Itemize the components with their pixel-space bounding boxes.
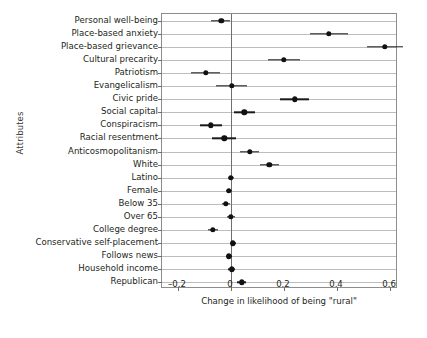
category-label: Place-based anxiety bbox=[14, 28, 158, 37]
category-label: Republican bbox=[14, 277, 158, 286]
gridline-row bbox=[162, 21, 396, 22]
estimate-point bbox=[228, 214, 233, 219]
estimate-point bbox=[223, 201, 228, 206]
y-axis-tick bbox=[158, 243, 162, 244]
y-axis-tick bbox=[158, 112, 162, 113]
y-axis-tick bbox=[158, 165, 162, 166]
gridline-row bbox=[162, 47, 396, 48]
estimate-point bbox=[222, 136, 227, 141]
estimate-point bbox=[267, 162, 272, 167]
x-axis-tick-label: 0.4 bbox=[329, 279, 343, 289]
category-label: Conspiracism bbox=[14, 120, 158, 129]
x-axis-tick-label: 0 bbox=[227, 279, 232, 289]
category-label: Cultural precarity bbox=[14, 54, 158, 63]
gridline-row bbox=[162, 152, 396, 153]
gridline-row bbox=[162, 204, 396, 205]
y-axis-tick bbox=[158, 191, 162, 192]
estimate-point bbox=[382, 44, 387, 49]
gridline-row bbox=[162, 230, 396, 231]
estimate-point bbox=[239, 280, 244, 285]
estimate-point bbox=[292, 96, 297, 101]
y-axis-tick bbox=[158, 60, 162, 61]
gridline-row bbox=[162, 243, 396, 244]
gridline-row bbox=[162, 217, 396, 218]
category-label: Evangelicalism bbox=[14, 81, 158, 90]
y-axis-tick bbox=[158, 152, 162, 153]
y-axis-tick bbox=[158, 269, 162, 270]
y-axis-tick bbox=[158, 47, 162, 48]
estimate-point bbox=[241, 110, 246, 115]
category-label: Racial resentment bbox=[14, 133, 158, 142]
estimate-point bbox=[229, 83, 234, 88]
category-label: Latino bbox=[14, 172, 158, 181]
category-label: College degree bbox=[14, 225, 158, 234]
y-axis-tick bbox=[158, 256, 162, 257]
gridline-row bbox=[162, 99, 396, 100]
gridline-row bbox=[162, 112, 396, 113]
estimate-plot-figure: Attributes Personal well-beingPlace-base… bbox=[0, 0, 427, 338]
category-label: Below 35 bbox=[14, 198, 158, 207]
category-label-column: Personal well-beingPlace-based anxietyPl… bbox=[14, 13, 158, 288]
x-axis-tick-label: 0.2 bbox=[276, 279, 290, 289]
x-axis-title: Change in likelihood of being "rural" bbox=[161, 296, 397, 306]
estimate-point bbox=[210, 227, 215, 232]
category-label: Social capital bbox=[14, 107, 158, 116]
category-label: Follows news bbox=[14, 251, 158, 260]
estimate-point bbox=[326, 31, 331, 36]
y-axis-tick bbox=[158, 86, 162, 87]
y-axis-tick bbox=[158, 21, 162, 22]
category-label: Place-based grievance bbox=[14, 41, 158, 50]
gridline-row bbox=[162, 86, 396, 87]
category-label: Anticosmopolitanism bbox=[14, 146, 158, 155]
gridline-row bbox=[162, 138, 396, 139]
y-axis-tick bbox=[158, 34, 162, 35]
y-axis-tick bbox=[158, 217, 162, 218]
estimate-point bbox=[208, 123, 213, 128]
category-label: Over 65 bbox=[14, 211, 158, 220]
estimate-point bbox=[228, 175, 233, 180]
x-axis-tick-label: 0.6 bbox=[382, 279, 396, 289]
gridline-row bbox=[162, 191, 396, 192]
y-axis-tick bbox=[158, 204, 162, 205]
estimate-point bbox=[230, 240, 235, 245]
estimate-point bbox=[247, 149, 252, 154]
y-axis-tick bbox=[158, 138, 162, 139]
category-label: White bbox=[14, 159, 158, 168]
gridline-row bbox=[162, 125, 396, 126]
category-label: Patriotism bbox=[14, 67, 158, 76]
gridline-row bbox=[162, 34, 396, 35]
y-axis-tick bbox=[158, 125, 162, 126]
plot-panel bbox=[161, 13, 397, 288]
y-axis-tick bbox=[158, 178, 162, 179]
zero-reference-line bbox=[231, 14, 232, 287]
gridline-row bbox=[162, 269, 396, 270]
y-axis-tick bbox=[158, 73, 162, 74]
x-axis-tick-label: –0.2 bbox=[168, 279, 186, 289]
category-label: Personal well-being bbox=[14, 15, 158, 24]
estimate-point bbox=[281, 57, 286, 62]
category-label: Conservative self-placement bbox=[14, 238, 158, 247]
estimate-point bbox=[218, 18, 223, 23]
gridline-row bbox=[162, 256, 396, 257]
category-label: Household income bbox=[14, 264, 158, 273]
y-axis-tick bbox=[158, 99, 162, 100]
gridline-row bbox=[162, 178, 396, 179]
y-axis-tick bbox=[158, 230, 162, 231]
estimate-point bbox=[229, 267, 234, 272]
category-label: Female bbox=[14, 185, 158, 194]
y-axis-tick bbox=[158, 282, 162, 283]
category-label: Civic pride bbox=[14, 94, 158, 103]
estimate-point bbox=[203, 70, 208, 75]
